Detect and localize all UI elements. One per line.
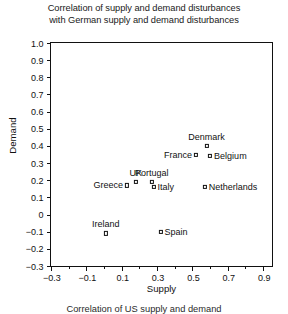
x-axis-tick-label: 0.1 — [116, 272, 129, 284]
y-axis-tick-label: 0 — [38, 209, 43, 221]
y-axis-tick: 0.3 — [47, 163, 52, 164]
y-axis-tick-label: 0.2 — [31, 175, 44, 187]
y-axis-tick-label: 0.7 — [31, 89, 44, 101]
x-axis-tick-label: 0.5 — [187, 272, 200, 284]
y-axis-tick: 0 — [47, 215, 52, 216]
x-axis-minor-tick — [139, 266, 140, 269]
data-point-label: France — [164, 150, 192, 160]
data-point-label: Netherlands — [209, 182, 258, 192]
data-point-label: Ireland — [92, 219, 120, 229]
data-point-marker — [134, 180, 138, 184]
data-point-marker — [159, 230, 163, 234]
x-axis-tick: 0.9 — [263, 266, 264, 271]
x-axis-tick-label: 0.7 — [223, 272, 236, 284]
data-point-marker — [203, 185, 207, 189]
chart-title: Correlation of supply and demand disturb… — [0, 3, 288, 26]
y-axis-tick-label: −0.3 — [26, 261, 44, 273]
data-point-marker — [151, 185, 155, 189]
x-axis-tick: 0.5 — [192, 266, 193, 271]
data-point-label: UK — [130, 168, 143, 178]
chart-title-line-2: with German supply and demand disturbanc… — [0, 15, 288, 27]
data-point-marker — [125, 183, 129, 187]
y-axis-tick: 1.0 — [47, 43, 52, 44]
y-axis-tick: 0.2 — [47, 180, 52, 181]
y-axis-tick: 0.9 — [47, 60, 52, 61]
y-axis-tick-label: 0.3 — [31, 158, 44, 170]
y-axis-tick-label: 0.5 — [31, 123, 44, 135]
data-point-label: Belgium — [214, 151, 247, 161]
y-axis-tick-label: 1.0 — [31, 38, 44, 50]
y-axis-tick: 0.7 — [47, 94, 52, 95]
data-point-marker — [150, 180, 154, 184]
x-axis-minor-tick — [175, 266, 176, 269]
scatter-chart-figure: Correlation of supply and demand disturb… — [0, 0, 288, 314]
data-point-marker — [204, 144, 208, 148]
y-axis-tick-label: 0.8 — [31, 72, 44, 84]
x-axis-minor-tick — [69, 266, 70, 269]
x-axis-tick: −0.1 — [86, 266, 87, 271]
x-axis-tick-label: 0.3 — [152, 272, 165, 284]
chart-title-line-1: Correlation of supply and demand disturb… — [0, 3, 288, 15]
x-axis-minor-tick — [104, 266, 105, 269]
bottom-caption: Correlation of US supply and demand — [0, 304, 288, 314]
y-axis-tick-label: 0.9 — [31, 55, 44, 67]
data-point-label: Greece — [94, 180, 124, 190]
data-point-marker — [208, 154, 212, 158]
x-axis-minor-tick — [245, 266, 246, 269]
y-axis-tick: 0.5 — [47, 129, 52, 130]
x-axis-title: Supply — [50, 283, 273, 294]
y-axis-tick: 0.1 — [47, 197, 52, 198]
x-axis-tick-label: 0.9 — [258, 272, 271, 284]
y-axis-tick: 0.4 — [47, 146, 52, 147]
y-axis-tick-label: 0.4 — [31, 140, 44, 152]
y-axis-tick-label: 0.6 — [31, 106, 44, 118]
data-point-label: Italy — [158, 182, 175, 192]
y-axis-tick: −0.2 — [47, 249, 52, 250]
plot-area: −0.3−0.2−0.100.10.20.30.40.50.60.70.80.9… — [50, 42, 273, 267]
x-axis-minor-tick — [210, 266, 211, 269]
data-point-label: Spain — [165, 227, 188, 237]
x-axis-tick: 0.3 — [157, 266, 158, 271]
y-axis-tick: 0.6 — [47, 112, 52, 113]
x-axis-tick-label: −0.1 — [78, 272, 96, 284]
x-axis-tick-label: −0.3 — [43, 272, 61, 284]
y-axis-tick-label: 0.1 — [31, 192, 44, 204]
y-axis-tick: 0.8 — [47, 77, 52, 78]
x-axis-tick: 0.7 — [228, 266, 229, 271]
x-axis-tick: 0.1 — [122, 266, 123, 271]
y-axis-tick: −0.1 — [47, 232, 52, 233]
data-point-marker — [194, 152, 198, 156]
y-axis-tick-label: −0.2 — [26, 243, 44, 255]
data-point-marker — [104, 231, 108, 235]
x-axis-tick: −0.3 — [51, 266, 52, 271]
y-axis-title: Demand — [7, 106, 18, 166]
data-point-label: Denmark — [188, 132, 225, 142]
y-axis-tick-label: −0.1 — [26, 226, 44, 238]
